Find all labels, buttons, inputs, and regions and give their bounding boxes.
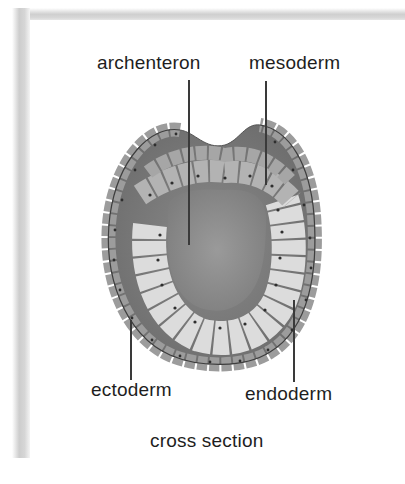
ectoderm-leader-line (130, 320, 132, 380)
label-endoderm: endoderm (245, 383, 332, 405)
endoderm-leader-line (293, 300, 295, 382)
figure-caption: cross section (150, 430, 263, 452)
archenteron-leader-line (188, 80, 190, 245)
label-ectoderm: ectoderm (91, 379, 172, 401)
mesoderm-leader-line (265, 81, 267, 185)
label-mesoderm: mesoderm (249, 52, 340, 74)
label-archenteron: archenteron (97, 52, 201, 74)
gastrula-cross-section (0, 0, 405, 484)
